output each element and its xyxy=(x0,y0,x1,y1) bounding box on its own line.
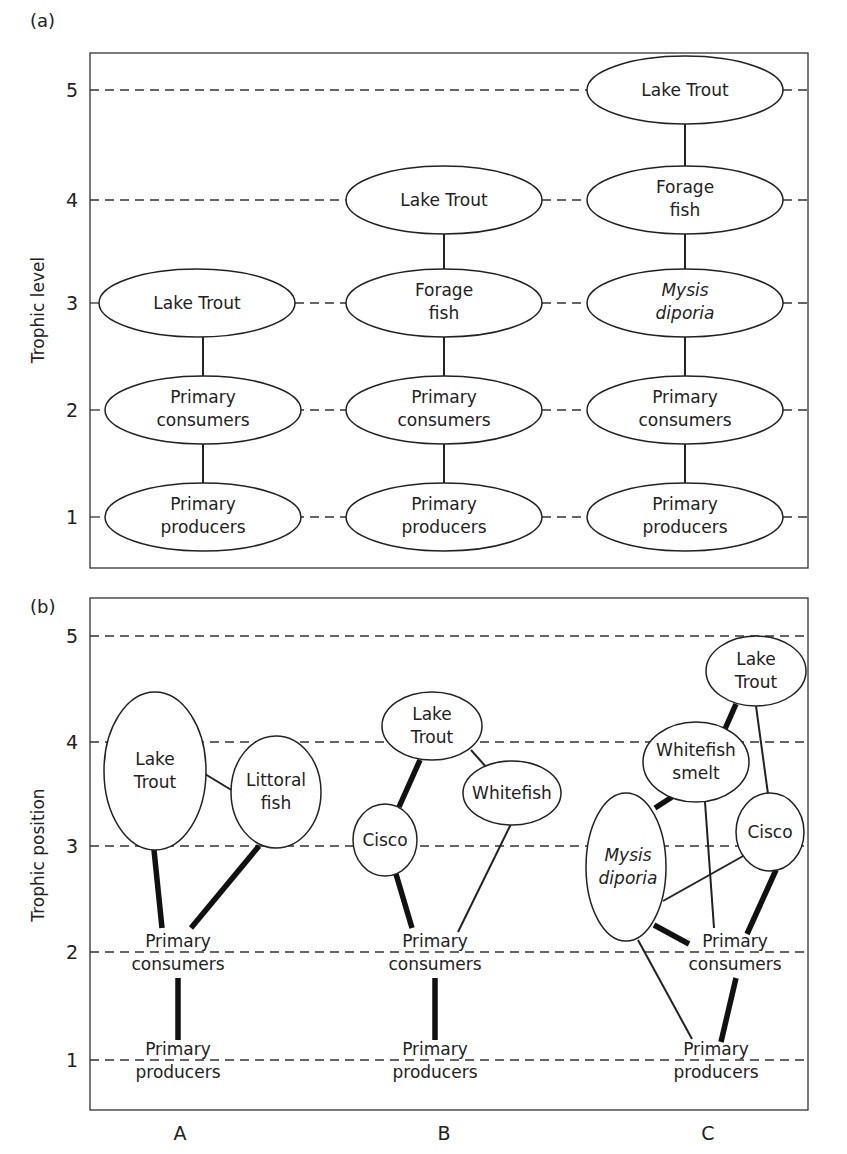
link-strong xyxy=(721,978,736,1042)
node-primary-consumers: Primary xyxy=(145,931,211,951)
node-mysis-diporia xyxy=(586,793,666,941)
link-strong xyxy=(725,704,736,729)
node-label: Mysis xyxy=(604,845,651,865)
tick-5: 5 xyxy=(66,79,78,101)
panel-b-x-labels: A B C xyxy=(174,1122,715,1144)
node-label: Trout xyxy=(410,727,454,747)
panel-a: (a) 5 4 3 xyxy=(28,10,808,568)
node-primary-producers: Primary xyxy=(402,1039,468,1059)
node-label: Cisco xyxy=(747,822,792,842)
node-label: Whitefish xyxy=(472,783,552,803)
x-label-A: A xyxy=(174,1122,187,1144)
node-littoral-fish xyxy=(231,736,321,848)
node-lake-trout xyxy=(706,636,806,706)
node-label: consumers xyxy=(156,410,249,430)
x-label-C: C xyxy=(701,1122,714,1144)
node-label: Primary xyxy=(170,494,236,514)
link-strong xyxy=(396,874,412,928)
tick-3: 3 xyxy=(66,835,78,857)
node-label: consumers xyxy=(388,954,481,974)
link-strong xyxy=(747,870,776,934)
link-strong xyxy=(154,850,162,928)
tick-5: 5 xyxy=(66,625,78,647)
node-label: Lake xyxy=(736,649,776,669)
node-label: producers xyxy=(401,517,486,537)
link-weak xyxy=(756,706,768,794)
node-label: Mysis xyxy=(661,280,708,300)
tick-2: 2 xyxy=(66,941,78,963)
panel-b-frame xyxy=(90,598,808,1110)
panel-b: (b) 5 4 3 2 1 Trophic position Lake xyxy=(28,596,808,1144)
node-label: consumers xyxy=(638,410,731,430)
node-label: fish xyxy=(429,303,459,323)
tick-4: 4 xyxy=(66,189,78,211)
panel-b-y-ticks: 5 4 3 2 1 xyxy=(66,625,78,1071)
node-label: fish xyxy=(261,793,291,813)
node-label: Primary xyxy=(652,387,718,407)
link-weak xyxy=(663,855,745,901)
panel-a-y-ticks: 5 4 3 2 1 xyxy=(66,79,78,528)
node-label: producers xyxy=(392,1062,477,1082)
link-weak xyxy=(205,774,233,791)
link-strong xyxy=(399,760,420,807)
link-weak xyxy=(458,824,511,932)
node-label: producers xyxy=(642,517,727,537)
node-label: consumers xyxy=(688,954,781,974)
tick-1: 1 xyxy=(66,506,78,528)
panel-a-label: (a) xyxy=(30,10,55,31)
node-label: Lake Trout xyxy=(641,80,729,100)
node-label: Lake xyxy=(412,704,452,724)
node-label: Forage xyxy=(415,280,473,300)
link-strong xyxy=(655,797,672,808)
link-weak xyxy=(705,802,714,928)
panel-b-label: (b) xyxy=(30,596,55,617)
node-label: Primary xyxy=(411,387,477,407)
node-label: fish xyxy=(670,200,700,220)
node-label: smelt xyxy=(672,763,720,783)
panel-b-column-A: Lake Trout Littoral fish Primary consume… xyxy=(104,692,321,1082)
food-web-figure: (a) 5 4 3 xyxy=(0,0,847,1154)
panel-a-column-A: Lake Trout Primary consumers Primary pro… xyxy=(99,269,301,551)
node-primary-consumers: Primary xyxy=(702,931,768,951)
node-label: Lake Trout xyxy=(153,293,241,313)
node-label: diporia xyxy=(599,868,658,888)
panel-a-y-axis-label: Trophic level xyxy=(28,257,48,364)
node-label: Primary xyxy=(411,494,477,514)
node-label: Littoral xyxy=(246,770,306,790)
node-label: producers xyxy=(160,517,245,537)
node-label: Whitefish xyxy=(656,740,736,760)
x-label-B: B xyxy=(437,1122,450,1144)
tick-1: 1 xyxy=(66,1049,78,1071)
node-label: consumers xyxy=(131,954,224,974)
node-label: Lake Trout xyxy=(400,190,488,210)
node-label: Trout xyxy=(133,772,177,792)
node-whitefish-smelt xyxy=(643,722,749,802)
tick-3: 3 xyxy=(66,292,78,314)
tick-4: 4 xyxy=(66,731,78,753)
node-label: Primary xyxy=(652,494,718,514)
node-label: consumers xyxy=(397,410,490,430)
link-weak xyxy=(638,940,692,1039)
link-strong xyxy=(191,846,259,928)
node-label: diporia xyxy=(656,303,715,323)
node-label: producers xyxy=(135,1062,220,1082)
panel-b-column-C: Lake Trout Whitefish smelt Cisco Mysis d… xyxy=(586,636,806,1082)
node-primary-producers: Primary xyxy=(145,1039,211,1059)
link-weak xyxy=(471,750,487,768)
tick-2: 2 xyxy=(66,399,78,421)
link-strong xyxy=(654,925,689,944)
node-primary-consumers: Primary xyxy=(402,931,468,951)
node-primary-producers: Primary xyxy=(683,1039,749,1059)
node-label: Trout xyxy=(734,672,778,692)
node-lake-trout xyxy=(382,692,482,760)
panel-b-column-B: Lake Trout Whitefish Cisco Primary consu… xyxy=(353,692,561,1082)
node-lake-trout xyxy=(104,692,206,850)
node-label: producers xyxy=(673,1062,758,1082)
node-label: Forage xyxy=(656,177,714,197)
node-label: Lake xyxy=(135,749,175,769)
panel-b-y-axis-label: Trophic position xyxy=(28,788,48,922)
node-label: Cisco xyxy=(362,830,407,850)
node-label: Primary xyxy=(170,387,236,407)
